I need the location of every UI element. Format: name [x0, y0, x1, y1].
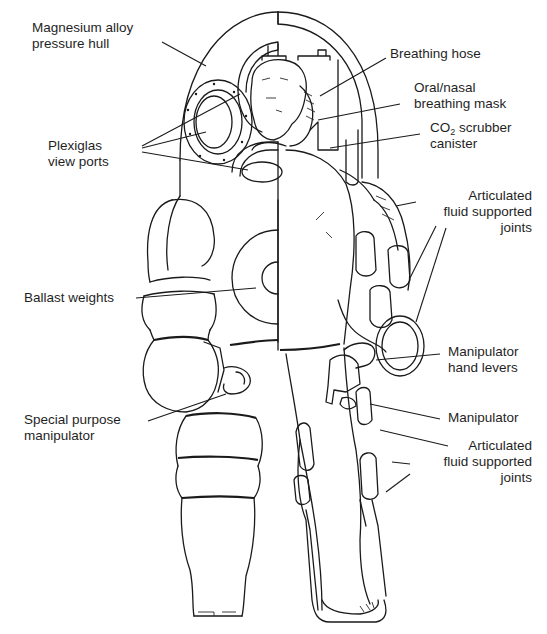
right-arm-drawing: [326, 170, 424, 409]
label-leg-joints: Articulated fluid supported joints: [420, 438, 532, 486]
label-breathing-mask: Oral/nasal breathing mask: [414, 80, 506, 112]
label-line: Manipulator: [448, 410, 519, 426]
label-line: Breathing hose: [390, 46, 481, 62]
label-co2-scrubber: CO2 scrubber canister: [430, 120, 512, 152]
label-line: CO2 scrubber: [430, 120, 512, 136]
co2-text: CO: [430, 120, 450, 135]
label-manipulator: Manipulator: [448, 410, 519, 426]
torso-drawing: [167, 142, 354, 350]
label-line: fluid supported: [420, 204, 532, 220]
diving-suit-diagram: Magnesium alloy pressure hull Breathing …: [0, 0, 547, 634]
label-line: manipulator: [24, 428, 121, 444]
label-line: fluid supported: [420, 454, 532, 470]
label-breathing-hose: Breathing hose: [390, 46, 481, 62]
label-line: Plexiglas: [48, 138, 109, 154]
label-line: Magnesium alloy: [32, 20, 133, 36]
label-arm-joints: Articulated fluid supported joints: [420, 188, 532, 236]
label-line: Articulated: [420, 188, 532, 204]
label-line: view ports: [48, 154, 109, 170]
label-line: breathing mask: [414, 96, 506, 112]
label-line: Manipulator: [448, 344, 519, 360]
pressure-hull-drawing: [180, 12, 378, 185]
label-line: Special purpose: [24, 412, 121, 428]
label-line: Articulated: [420, 438, 532, 454]
label-hand-levers: Manipulator hand levers: [448, 344, 519, 376]
label-line: Oral/nasal: [414, 80, 506, 96]
label-view-ports: Plexiglas view ports: [48, 138, 109, 170]
right-leg-drawing: [286, 348, 386, 622]
label-line: canister: [430, 136, 512, 152]
label-special-manipulator: Special purpose manipulator: [24, 412, 121, 444]
label-ballast-weights: Ballast weights: [24, 290, 114, 306]
left-arm-drawing: [142, 199, 250, 412]
label-line: Ballast weights: [24, 290, 114, 306]
label-pressure-hull: Magnesium alloy pressure hull: [32, 20, 133, 52]
label-line: joints: [420, 220, 532, 236]
label-line: pressure hull: [32, 36, 133, 52]
label-line: hand levers: [448, 360, 519, 376]
label-line: joints: [420, 470, 532, 486]
scrubber-text: scrubber: [455, 120, 511, 135]
leader-lines: [136, 42, 448, 492]
left-leg-drawing: [176, 413, 262, 616]
